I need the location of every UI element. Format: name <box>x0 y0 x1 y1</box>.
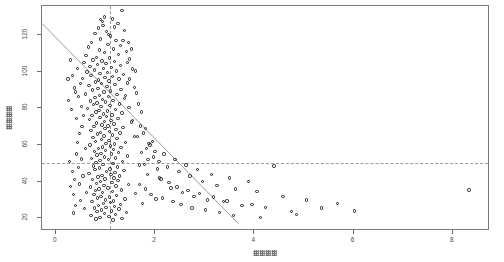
y-axis-tick <box>37 71 41 72</box>
data-point <box>110 152 113 155</box>
data-point <box>96 175 99 178</box>
tofu-glyph <box>6 112 12 117</box>
data-point <box>111 133 114 136</box>
data-point <box>117 151 120 154</box>
y-axis-tick <box>37 181 41 182</box>
data-point <box>101 24 104 27</box>
data-point <box>103 15 106 18</box>
data-point <box>130 47 133 50</box>
data-point <box>108 56 111 59</box>
data-point <box>272 164 275 167</box>
data-point <box>135 91 138 94</box>
data-point <box>69 58 72 61</box>
data-point <box>115 137 118 140</box>
data-point <box>166 165 169 168</box>
data-point <box>111 162 114 165</box>
data-point <box>177 170 180 173</box>
data-point <box>123 197 126 200</box>
data-point <box>88 143 91 146</box>
data-point <box>72 193 75 196</box>
data-point <box>74 90 77 93</box>
data-point <box>225 199 228 202</box>
x-axis-tick <box>154 230 155 234</box>
y-axis-tick-label: 20 <box>21 214 28 221</box>
data-point <box>142 131 145 134</box>
data-point <box>94 80 97 83</box>
data-point <box>190 206 193 209</box>
x-axis-tick <box>253 230 254 234</box>
data-point <box>120 111 123 114</box>
data-point <box>113 142 116 145</box>
data-point <box>104 100 107 103</box>
data-point <box>107 79 110 82</box>
data-point <box>118 174 121 177</box>
data-point <box>121 126 124 129</box>
data-point <box>94 217 97 220</box>
data-point <box>99 195 102 198</box>
data-point <box>128 77 131 80</box>
data-point <box>108 167 111 170</box>
data-point <box>93 68 96 71</box>
data-point <box>115 69 118 72</box>
data-point <box>115 194 118 197</box>
data-point <box>89 214 92 217</box>
data-point <box>192 195 195 198</box>
data-point <box>140 151 143 154</box>
tofu-glyph <box>266 250 271 256</box>
data-point <box>139 124 142 127</box>
tofu-glyph <box>6 106 12 111</box>
plot-frame <box>41 5 489 230</box>
data-point <box>96 132 99 135</box>
data-point <box>94 161 97 164</box>
data-point <box>94 110 97 113</box>
data-point <box>126 81 129 84</box>
y-axis-tick <box>37 217 41 218</box>
data-point <box>112 199 115 202</box>
data-point <box>85 70 88 73</box>
data-point <box>106 186 109 189</box>
data-point <box>124 141 127 144</box>
data-point <box>97 109 100 112</box>
data-point <box>114 184 117 187</box>
data-point <box>119 44 122 47</box>
data-point <box>133 86 136 89</box>
data-point <box>259 216 262 219</box>
data-point <box>106 43 109 46</box>
data-point <box>112 47 115 50</box>
data-point <box>96 196 99 199</box>
data-point <box>116 22 119 25</box>
data-point <box>92 193 95 196</box>
data-point <box>264 206 267 209</box>
data-point <box>122 169 125 172</box>
data-point <box>152 155 155 158</box>
data-point <box>102 184 105 187</box>
data-point <box>188 174 191 177</box>
data-point <box>91 58 94 61</box>
data-point <box>111 99 114 102</box>
data-point <box>89 74 92 77</box>
y-axis-title <box>4 106 12 131</box>
data-point <box>281 195 284 198</box>
data-point <box>78 132 81 135</box>
data-point <box>98 116 101 119</box>
data-point <box>102 90 105 93</box>
data-point <box>116 117 119 120</box>
data-point <box>99 152 102 155</box>
data-point <box>106 109 109 112</box>
data-point <box>113 25 116 28</box>
data-point <box>66 77 69 80</box>
data-point <box>87 172 90 175</box>
data-point <box>305 198 308 201</box>
data-point <box>81 174 84 177</box>
data-point <box>250 203 253 206</box>
data-point <box>110 209 113 212</box>
data-point <box>99 105 102 108</box>
data-point <box>156 167 159 170</box>
x-axis-tick-label: 2 <box>152 236 156 243</box>
plot-area <box>42 6 488 229</box>
data-point <box>113 171 116 174</box>
data-point <box>169 186 172 189</box>
data-point <box>157 160 160 163</box>
data-point <box>120 188 123 191</box>
data-point <box>100 208 103 211</box>
